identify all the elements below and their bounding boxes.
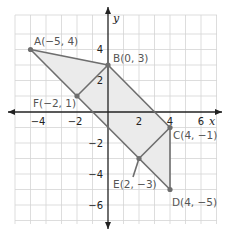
x-tick-4: 4 <box>167 116 173 127</box>
x-tick-2: 2 <box>136 116 142 127</box>
label-f: F(−2, 1) <box>33 97 76 109</box>
point-d <box>167 187 172 192</box>
point-e <box>136 156 141 161</box>
label-e: E(2, −3) <box>113 178 157 190</box>
point-b <box>105 62 110 67</box>
x-tick-6: 6 <box>198 116 204 127</box>
label-d: D(4, −5) <box>172 196 217 208</box>
coordinate-plane: −4 −2 2 4 6 4 2 −2 −4 −6 x y A(−5, 4) B(… <box>0 0 229 234</box>
point-a <box>28 47 33 52</box>
label-b: B(0, 3) <box>113 52 148 64</box>
x-tick-neg4: −4 <box>31 116 46 127</box>
label-a: A(−5, 4) <box>34 35 78 47</box>
label-c: C(4, −1) <box>173 129 217 141</box>
y-tick-neg6: −6 <box>88 200 103 211</box>
x-tick-neg2: −2 <box>68 116 83 127</box>
y-tick-neg4: −4 <box>88 169 103 180</box>
y-tick-4: 4 <box>97 44 103 55</box>
x-axis-label: x <box>209 115 216 128</box>
y-axis-label: y <box>112 12 120 25</box>
y-tick-2: 2 <box>97 75 103 86</box>
y-tick-neg2: −2 <box>88 138 103 149</box>
